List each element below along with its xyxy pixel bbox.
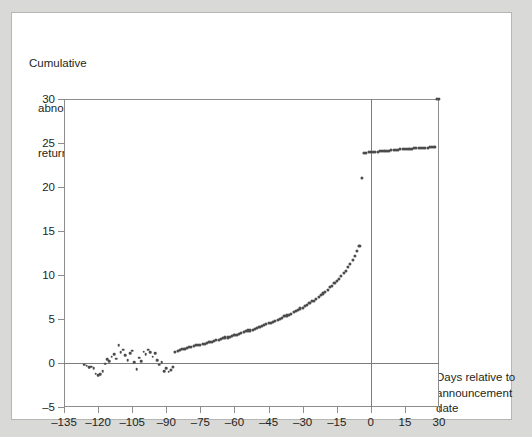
x-axis-tick bbox=[405, 407, 406, 413]
plot-frame bbox=[64, 99, 439, 407]
y-axis-tick bbox=[58, 99, 64, 100]
data-point bbox=[104, 363, 107, 366]
data-point bbox=[135, 368, 138, 371]
data-point bbox=[156, 359, 159, 362]
y-axis-tick-label: 15 bbox=[42, 225, 55, 237]
x-axis-tick-label: –135 bbox=[51, 416, 77, 428]
x-axis-tick-label: –45 bbox=[259, 416, 278, 428]
data-point bbox=[154, 352, 157, 355]
x-axis-tick bbox=[269, 407, 270, 413]
x-axis-tick-label: –60 bbox=[225, 416, 244, 428]
data-point bbox=[138, 356, 141, 359]
data-point bbox=[129, 352, 132, 355]
data-point bbox=[120, 351, 123, 354]
figure-card: Cumulative abnormal return, % Days relat… bbox=[11, 12, 512, 420]
data-point bbox=[160, 361, 163, 364]
data-point bbox=[133, 361, 136, 364]
y-axis-tick bbox=[58, 143, 64, 144]
x-axis-tick-label: 30 bbox=[433, 416, 446, 428]
x-axis-title: Days relative to announcement date bbox=[436, 370, 528, 417]
data-point bbox=[108, 360, 111, 363]
x-axis-tick bbox=[303, 407, 304, 413]
data-point bbox=[165, 367, 168, 370]
data-point bbox=[131, 349, 134, 352]
y-axis-tick-label: 0 bbox=[49, 357, 55, 369]
y-axis-tick-label: 20 bbox=[42, 181, 55, 193]
x-axis-tick bbox=[166, 407, 167, 413]
x-axis-tick-label: –90 bbox=[157, 416, 176, 428]
data-point bbox=[117, 344, 120, 347]
data-point bbox=[110, 356, 113, 359]
data-point bbox=[149, 351, 152, 354]
x-axis-tick-label: –105 bbox=[119, 416, 145, 428]
x-axis-tick bbox=[439, 407, 440, 413]
x-axis-tick-label: 0 bbox=[368, 416, 374, 428]
x-axis-tick-label: 15 bbox=[399, 416, 412, 428]
x-axis-tick bbox=[371, 407, 372, 413]
y-axis-title-line-1: Cumulative bbox=[29, 56, 87, 71]
x-axis-tick-label: –75 bbox=[191, 416, 210, 428]
x-axis-tick bbox=[337, 407, 338, 413]
data-point bbox=[163, 370, 166, 373]
x-axis-tick-label: –120 bbox=[85, 416, 111, 428]
data-point bbox=[158, 363, 161, 366]
x-axis-tick-label: –15 bbox=[327, 416, 346, 428]
y-axis-tick-label: –5 bbox=[42, 401, 55, 413]
data-point bbox=[115, 357, 118, 360]
x-axis-tick bbox=[234, 407, 235, 413]
data-point bbox=[124, 354, 127, 357]
y-axis-tick bbox=[58, 275, 64, 276]
x-axis-tick bbox=[132, 407, 133, 413]
announcement-date-line bbox=[371, 99, 372, 407]
data-point bbox=[145, 353, 148, 356]
y-axis-tick bbox=[58, 187, 64, 188]
x-axis-tick bbox=[98, 407, 99, 413]
data-point bbox=[122, 349, 125, 352]
y-axis-tick bbox=[58, 319, 64, 320]
y-axis-tick-label: 30 bbox=[42, 93, 55, 105]
y-axis-tick-label: 10 bbox=[42, 269, 55, 281]
zero-return-line bbox=[64, 363, 439, 364]
y-axis-tick bbox=[58, 231, 64, 232]
x-axis-tick bbox=[64, 407, 65, 413]
x-axis-tick-label: –30 bbox=[293, 416, 312, 428]
data-point bbox=[113, 353, 116, 356]
y-axis-tick-label: 5 bbox=[49, 313, 55, 325]
data-point bbox=[151, 356, 154, 359]
data-point bbox=[99, 373, 102, 376]
data-point bbox=[126, 359, 129, 362]
data-point bbox=[437, 97, 440, 100]
y-axis-tick-label: 25 bbox=[42, 137, 55, 149]
x-axis-tick bbox=[200, 407, 201, 413]
data-point bbox=[101, 370, 104, 373]
data-point bbox=[92, 367, 95, 370]
data-point bbox=[140, 360, 143, 363]
plot-area: –5051015202530–135–120–105–90–75–60–45–3… bbox=[64, 99, 439, 407]
